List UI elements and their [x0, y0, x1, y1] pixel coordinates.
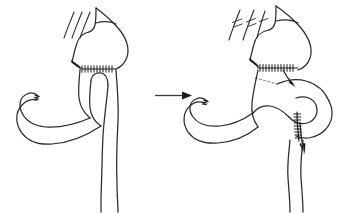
gastric-pouch-right-wall: [276, 6, 311, 70]
limb-cross-upper: [277, 80, 329, 101]
hidden-edge: [255, 78, 277, 84]
upper-flow-arrow: [283, 70, 296, 88]
gastric-pouch-left-wall: [72, 32, 89, 62]
gastrojejunal-suture-line: [258, 65, 298, 72]
gastrojejunal-suture-line: [80, 66, 116, 72]
efferent-limb-left-wall: [101, 85, 108, 212]
gastric-pouch-right-wall: [96, 8, 128, 69]
figure-canvas: Roux-en-Y gastric bypass revision: befor…: [0, 0, 358, 214]
transition-arrow: [155, 92, 192, 100]
panel-before: [17, 8, 128, 212]
roux-limb-hairpin: [91, 73, 108, 85]
right-loop-inner: [289, 97, 317, 124]
roux-limb-inner-wall: [90, 80, 101, 126]
blind-end-staple-line: [34, 95, 39, 100]
blind-limb-lower-wall: [184, 102, 258, 143]
surgical-figure: Roux-en-Y gastric bypass revision: befor…: [0, 0, 358, 214]
roux-limb-outer-wall: [79, 70, 90, 118]
gastric-pouch-left-wall: [250, 30, 269, 60]
gastric-pouch-fundus: [276, 20, 298, 23]
efferent-limb-right-wall: [116, 70, 118, 212]
esophagus-stump: [269, 6, 276, 30]
blind-end-staple-line: [202, 100, 208, 104]
oblique-suture-line: [249, 59, 258, 67]
oblique-suture-line: [71, 61, 80, 68]
esophagus-vessels-ligated: [229, 10, 268, 40]
panel-after: [184, 6, 332, 212]
esophagus-vessels: [64, 12, 90, 38]
limb-cross-lower: [253, 106, 289, 117]
efferent-limb-left-wall: [288, 140, 290, 212]
